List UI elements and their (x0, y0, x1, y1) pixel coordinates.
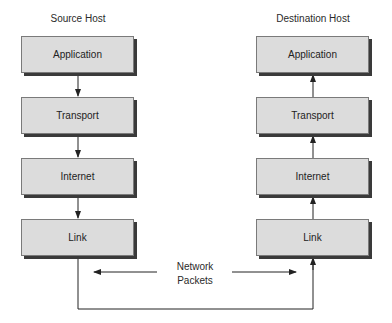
source-layer-link: Link (21, 219, 134, 256)
destination-layer-transport: Transport (256, 97, 369, 134)
network-packets-label: Network Packets (160, 260, 230, 288)
source-layer-internet: Internet (21, 158, 134, 195)
destination-layer-internet: Internet (256, 158, 369, 195)
network-label-line1: Network (160, 260, 230, 274)
destination-layer-application: Application (256, 36, 369, 73)
network-label-line2: Packets (160, 274, 230, 288)
source-layer-transport: Transport (21, 97, 134, 134)
source-layer-application: Application (21, 36, 134, 73)
destination-layer-link: Link (256, 219, 369, 256)
